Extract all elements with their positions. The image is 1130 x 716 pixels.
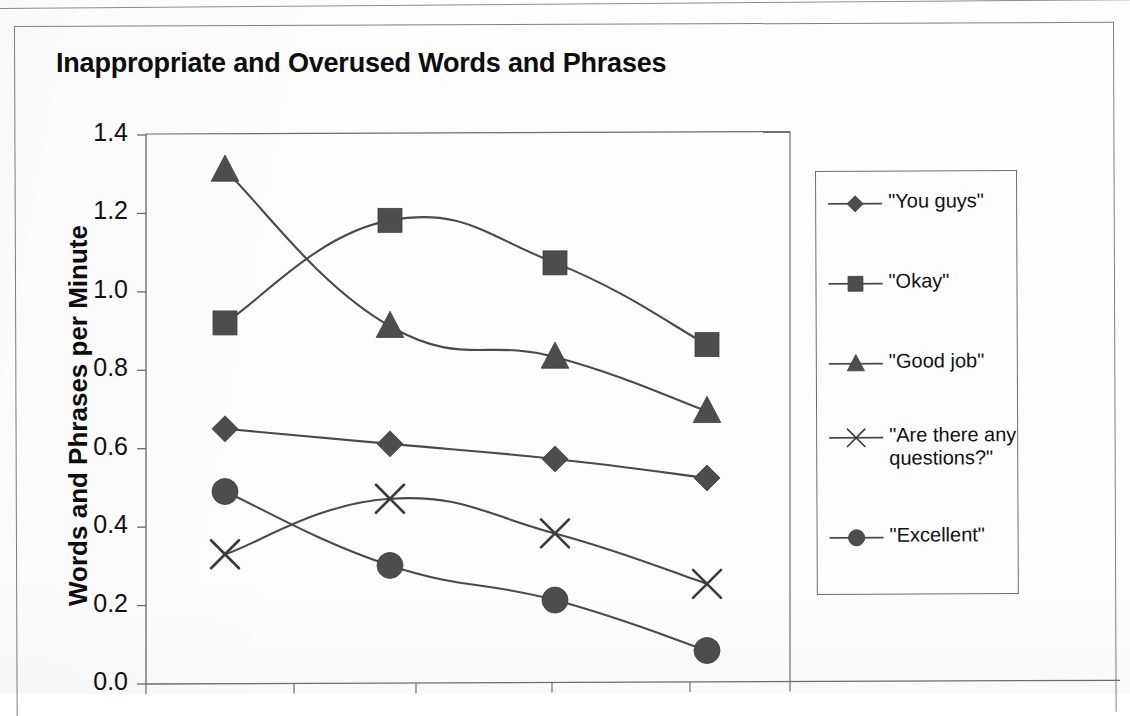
series-2 xyxy=(211,155,721,423)
legend-item[interactable]: "Are there any questions?" xyxy=(827,423,1016,470)
triangle-marker-icon xyxy=(827,351,885,377)
legend-item-label: "Excellent" xyxy=(890,523,985,546)
legend-item-label: "Good job" xyxy=(889,349,984,372)
data-series-group xyxy=(211,155,721,664)
y-axis-tick-marks xyxy=(137,135,146,684)
chart-legend: "You guys""Okay""Good job""Are there any… xyxy=(815,170,1019,595)
legend-item-label: "Okay" xyxy=(888,269,949,292)
series-3 xyxy=(211,485,721,598)
legend-item[interactable]: "Good job" xyxy=(827,349,984,377)
square-marker-icon xyxy=(826,271,884,297)
legend-item-label: "You guys" xyxy=(888,189,984,212)
legend-item[interactable]: "You guys" xyxy=(826,189,984,217)
series-0 xyxy=(212,416,720,491)
series-1 xyxy=(213,208,719,356)
circle-marker-icon xyxy=(828,525,886,551)
legend-item-label: "Are there any questions?" xyxy=(889,423,1016,470)
legend-item[interactable]: "Okay" xyxy=(826,269,949,297)
legend-item[interactable]: "Excellent" xyxy=(828,523,985,551)
x-marker-icon xyxy=(827,425,885,451)
diamond-marker-icon xyxy=(826,191,884,217)
